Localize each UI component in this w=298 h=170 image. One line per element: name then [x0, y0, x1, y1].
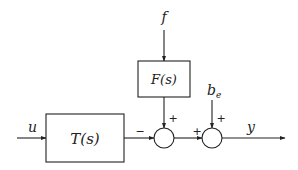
signal-f-label: f [160, 9, 169, 25]
summing-junction-1 [154, 128, 174, 148]
signal-y-label: y [246, 119, 256, 135]
signal-be-label: be [207, 82, 221, 100]
block-F: F(s) [138, 61, 190, 97]
block-F-label: F(s) [150, 72, 177, 87]
block-T: T(s) [46, 114, 124, 162]
sum2-plus-sign-top: + [216, 112, 225, 125]
block-diagram: u T(s) − f F(s) + + be + y [0, 0, 298, 170]
sum1-plus-sign: + [168, 112, 177, 125]
signal-u-label: u [28, 119, 37, 135]
block-T-label: T(s) [70, 130, 100, 148]
sum2-plus-sign-left: + [192, 125, 201, 138]
sum1-minus-sign: − [135, 125, 144, 138]
signal-be-base: b [207, 82, 216, 98]
summing-junction-2 [202, 128, 222, 148]
signal-be-subscript: e [216, 90, 221, 100]
